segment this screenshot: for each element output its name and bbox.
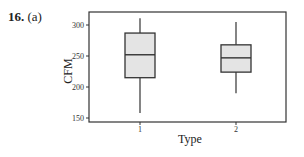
box-2 [221, 22, 251, 93]
boxes [125, 18, 251, 113]
plot-area [89, 12, 286, 122]
box-plot: 150200250300 12 CFM Type [0, 0, 304, 157]
y-tick-label: 150 [72, 114, 84, 123]
plot-frame [89, 12, 286, 122]
x-tick-label: 2 [234, 125, 238, 134]
y-tick-label: 300 [72, 21, 84, 30]
box-1 [125, 18, 155, 113]
x-tick-label: 1 [138, 125, 142, 134]
x-axis-title: Type [178, 132, 202, 146]
y-axis-title: CFM [61, 58, 75, 84]
